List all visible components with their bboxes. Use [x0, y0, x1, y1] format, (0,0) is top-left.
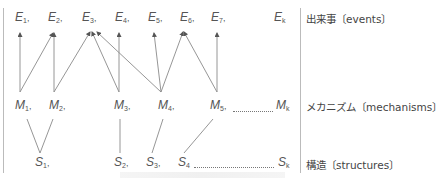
mechanism-node-m3: M3,	[114, 98, 130, 112]
event-node-e5: E5,	[148, 10, 162, 24]
structure-node-sk: Sk	[278, 155, 290, 169]
mechanism-node-m1: M1,	[15, 98, 31, 112]
structure-node-s1: S1,	[35, 155, 49, 169]
mechanism-ellipsis-dots	[233, 111, 273, 112]
structure-node-s2: S2,	[114, 155, 128, 169]
figure-caption-cropped	[120, 172, 285, 178]
row-label-structures: 構造〔structures〕	[306, 157, 399, 172]
mechanism-node-m5: M5,	[210, 98, 226, 112]
event-node-e4: E4,	[115, 10, 129, 24]
event-node-e1: E1,	[15, 10, 29, 24]
edge-S1-M2	[40, 119, 53, 153]
row-label-events: 出来事〔events〕	[306, 11, 391, 26]
edge-M3-E3	[92, 32, 119, 92]
edge-S4-M5	[184, 119, 213, 153]
mechanism-node-m4: M4,	[158, 98, 174, 112]
structure-node-s3: S3,	[146, 155, 160, 169]
edge-M4-E5	[154, 33, 161, 92]
edge-M4-E6	[161, 32, 183, 92]
mechanism-node-m2: M2,	[49, 98, 65, 112]
event-node-e7: E7,	[211, 10, 225, 24]
structure-ellipsis-dots	[194, 167, 274, 168]
edge-M5-E6	[184, 32, 217, 92]
event-node-ek: Ek	[274, 10, 286, 24]
edge-M4-E3	[97, 32, 161, 92]
event-node-e6: E6,	[180, 10, 194, 24]
structure-node-s4: S4	[178, 155, 190, 169]
edge-S1-M1	[27, 119, 40, 153]
edge-M1-E2	[20, 33, 53, 92]
edge-S3-M4	[152, 119, 163, 153]
row-label-mechanisms: メカニズム〔mechanisms〕	[306, 99, 440, 114]
mechanism-node-mk: Mk	[276, 98, 290, 112]
edge-M2-E3	[54, 32, 90, 92]
event-node-e2: E2,	[48, 10, 62, 24]
event-node-e3: E3,	[82, 10, 96, 24]
